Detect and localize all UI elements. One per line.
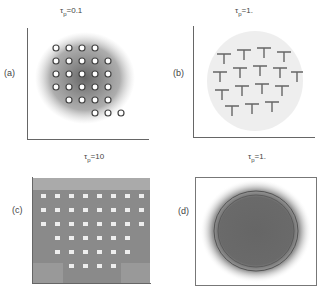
title-value: =10	[91, 152, 105, 161]
panel-d-label: (d)	[178, 206, 189, 216]
panel-c-title: τp=10	[84, 152, 104, 163]
title-value: =1.	[242, 6, 253, 15]
panel-d-title: τp=1.	[248, 152, 266, 163]
panel-d-plot	[196, 178, 315, 284]
title-value: =1.	[255, 152, 266, 161]
panel-c-plot	[33, 178, 150, 283]
panel-c-label: (c)	[12, 205, 23, 215]
panel-b-plot	[195, 26, 313, 136]
panel-b-title: τp=1.	[235, 6, 253, 17]
panel-a-plot	[28, 28, 148, 138]
panel-a-title: τp=0.1	[60, 6, 82, 17]
title-value: =0.1	[67, 6, 83, 15]
panel-a-label: (a)	[4, 68, 15, 78]
panel-b-label: (b)	[173, 68, 184, 78]
